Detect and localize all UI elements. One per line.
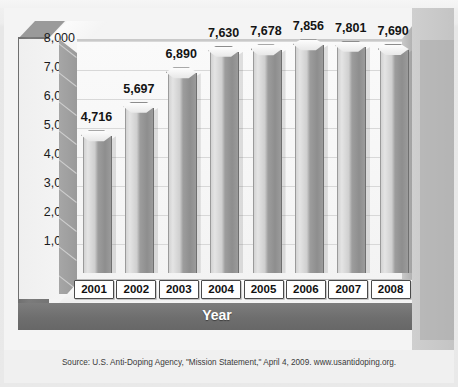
x-tick-label: 2003	[159, 280, 199, 299]
bar-body	[125, 108, 154, 273]
bar-value-label: 6,890	[152, 47, 211, 61]
bar-value-label: 4,716	[67, 110, 126, 124]
bar-value-label: 5,697	[109, 82, 168, 96]
x-tick-label: 2002	[116, 280, 156, 299]
bar-column: 6,890	[168, 73, 195, 273]
bar-body	[295, 45, 324, 273]
bar-body	[253, 50, 282, 273]
y-tick-label: 8,000	[23, 31, 75, 45]
left-side-wall-gridlines	[59, 39, 77, 294]
plot-area: 8,0007,0006,0005,0004,0003,0002,0001,000…	[49, 21, 416, 303]
x-axis-tick-labels: 20012002200320042005200620072008	[49, 280, 416, 300]
bar-column: 7,630	[210, 52, 237, 273]
x-axis-title: Year	[18, 307, 416, 323]
cropped-title-sliver	[0, 0, 458, 8]
x-tick-label: 2006	[286, 280, 326, 299]
bar-column: 7,678	[253, 50, 280, 273]
bar-body	[168, 73, 197, 273]
source-note: Source: U.S. Anti-Doping Agency, "Missio…	[4, 358, 454, 367]
bar-body	[380, 50, 409, 273]
bar-body	[83, 136, 112, 273]
bar-column: 7,690	[380, 50, 407, 273]
bar-series: 4,7165,6976,8907,6307,6787,8567,8017,690	[77, 39, 416, 281]
chart-figure: Number of Tests Year 8,0007,0006,0005,00…	[0, 0, 458, 387]
bar-column: 5,697	[125, 108, 152, 273]
x-tick-label: 2007	[328, 280, 368, 299]
bar-body	[210, 52, 239, 273]
bar-column: 4,716	[83, 136, 110, 273]
source-bar: Source: U.S. Anti-Doping Agency, "Missio…	[4, 350, 454, 383]
x-tick-label: 2001	[74, 280, 114, 299]
bar-body	[337, 47, 366, 273]
page-right-gutter-shade	[420, 40, 454, 340]
x-tick-label: 2005	[244, 280, 284, 299]
x-tick-label: 2004	[201, 280, 241, 299]
bar-column: 7,856	[295, 45, 322, 273]
bar-column: 7,801	[337, 47, 364, 273]
chart-plate: Number of Tests Year 8,0007,0006,0005,00…	[4, 8, 454, 350]
x-tick-label: 2008	[371, 280, 411, 299]
